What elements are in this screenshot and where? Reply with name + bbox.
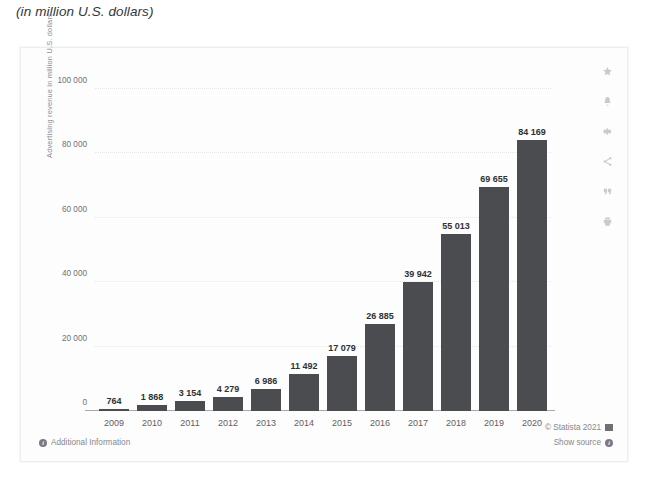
bar-group: 26 8852016 bbox=[361, 73, 399, 411]
bar-group: 17 0792015 bbox=[323, 73, 361, 411]
show-source-link[interactable]: Show source i bbox=[545, 435, 613, 451]
bar[interactable] bbox=[175, 401, 205, 411]
bar-group: 1 8682010 bbox=[133, 73, 171, 411]
bar-value-label: 26 885 bbox=[366, 311, 394, 321]
x-axis-tick-label: 2012 bbox=[218, 418, 238, 428]
bar[interactable] bbox=[137, 405, 167, 411]
bar[interactable] bbox=[441, 234, 471, 411]
bar-value-label: 69 655 bbox=[480, 174, 508, 184]
quote-icon[interactable] bbox=[595, 176, 619, 206]
y-axis-tick-label: 60 000 bbox=[62, 204, 87, 213]
x-axis-tick-label: 2019 bbox=[484, 418, 504, 428]
bar[interactable] bbox=[289, 374, 319, 411]
bar-value-label: 3 154 bbox=[179, 388, 202, 398]
bar[interactable] bbox=[479, 187, 509, 411]
x-axis-tick-label: 2018 bbox=[446, 418, 466, 428]
x-axis-tick-label: 2020 bbox=[522, 418, 542, 428]
bar-group: 69 6552019 bbox=[475, 73, 513, 411]
x-axis-tick-label: 2011 bbox=[180, 418, 199, 428]
x-axis-tick-label: 2009 bbox=[104, 418, 124, 428]
chart-panel: Advertising revenue in million U.S. doll… bbox=[20, 47, 628, 462]
x-axis-tick-label: 2016 bbox=[370, 418, 390, 428]
bar-value-label: 764 bbox=[106, 396, 121, 406]
bar-group: 84 1692020 bbox=[513, 73, 551, 411]
bar-group: 39 9422017 bbox=[399, 73, 437, 411]
chart-subtitle: (in million U.S. dollars) bbox=[16, 4, 154, 19]
flag-icon bbox=[605, 424, 613, 431]
bar[interactable] bbox=[403, 282, 433, 411]
y-axis-tick-label: 0 bbox=[82, 398, 87, 407]
info-icon: i bbox=[39, 439, 47, 447]
bar-value-label: 17 079 bbox=[328, 343, 356, 353]
copyright-row: © Statista 2021 bbox=[545, 420, 613, 436]
bar-value-label: 4 279 bbox=[217, 384, 240, 394]
y-axis-tick-label: 20 000 bbox=[62, 333, 87, 342]
footer-right: © Statista 2021 Show source i bbox=[545, 420, 613, 451]
star-icon[interactable] bbox=[595, 56, 619, 86]
gear-icon[interactable] bbox=[595, 116, 619, 146]
print-icon[interactable] bbox=[595, 206, 619, 236]
bar[interactable] bbox=[99, 409, 129, 411]
info-icon: i bbox=[605, 439, 613, 447]
x-axis-tick-label: 2010 bbox=[142, 418, 162, 428]
bell-icon[interactable] bbox=[595, 86, 619, 116]
y-axis-tick-label: 80 000 bbox=[62, 140, 87, 149]
bar-value-label: 55 013 bbox=[442, 221, 470, 231]
bar-value-label: 1 868 bbox=[141, 392, 164, 402]
bar-group: 55 0132018 bbox=[437, 73, 475, 411]
x-axis-tick-label: 2013 bbox=[256, 418, 276, 428]
additional-information-link[interactable]: i Additional Information bbox=[39, 438, 130, 447]
bar[interactable] bbox=[365, 324, 395, 411]
icon-toolbar[interactable] bbox=[593, 56, 621, 236]
bar[interactable] bbox=[517, 140, 547, 411]
y-axis-tick-label: 40 000 bbox=[62, 269, 87, 278]
bar[interactable] bbox=[213, 397, 243, 411]
x-axis-tick-label: 2014 bbox=[294, 418, 314, 428]
bar-group: 11 4922014 bbox=[285, 73, 323, 411]
bar-group: 4 2792012 bbox=[209, 73, 247, 411]
bar-value-label: 39 942 bbox=[404, 269, 432, 279]
share-icon[interactable] bbox=[595, 146, 619, 176]
y-axis-tick-label: 100 000 bbox=[57, 76, 87, 85]
plot-area: 020 00040 00060 00080 000100 000 7642009… bbox=[95, 73, 551, 411]
y-axis-title: Advertising revenue in million U.S. doll… bbox=[45, 0, 54, 158]
x-axis-tick-label: 2015 bbox=[332, 418, 352, 428]
show-source-label: Show source bbox=[554, 435, 601, 451]
bar-group: 7642009 bbox=[95, 73, 133, 411]
bar-value-label: 84 169 bbox=[518, 127, 546, 137]
bar-series: 76420091 86820103 15420114 27920126 9862… bbox=[95, 73, 551, 411]
x-axis-tick-label: 2017 bbox=[408, 418, 428, 428]
bar-value-label: 6 986 bbox=[255, 376, 278, 386]
copyright-label: © Statista 2021 bbox=[545, 420, 601, 436]
bar-group: 3 1542011 bbox=[171, 73, 209, 411]
additional-information-label: Additional Information bbox=[51, 438, 130, 447]
bar-value-label: 11 492 bbox=[290, 361, 317, 371]
bar[interactable] bbox=[251, 389, 281, 411]
bar-group: 6 9862013 bbox=[247, 73, 285, 411]
bar[interactable] bbox=[327, 356, 357, 411]
